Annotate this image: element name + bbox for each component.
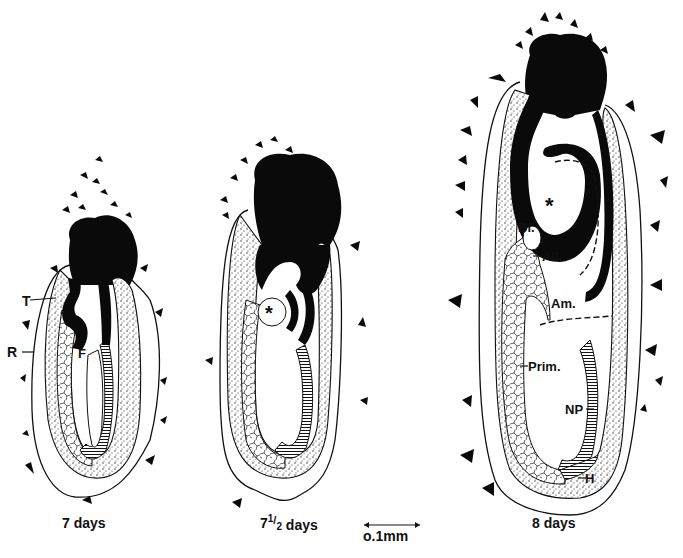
scale-bar-label: o.1mm bbox=[363, 528, 408, 544]
mesoderm-layer bbox=[502, 230, 565, 484]
label-T: T bbox=[22, 293, 31, 309]
proamniotic-cavity bbox=[87, 350, 103, 447]
inner-black-band bbox=[98, 282, 111, 345]
asterisk-marker: * bbox=[545, 193, 554, 218]
asterisk-marker: * bbox=[265, 302, 273, 324]
label-H: H bbox=[585, 471, 594, 486]
label-R: R bbox=[7, 344, 17, 360]
inner-black-band-2 bbox=[285, 290, 299, 332]
amnion-line-lower bbox=[540, 316, 612, 325]
ectoderm-layer bbox=[275, 345, 313, 458]
caption-7-days: 7 days bbox=[62, 515, 106, 531]
label-Am: Am. bbox=[551, 296, 576, 311]
label-Prim: Prim. bbox=[528, 359, 561, 374]
label-Bl: Bl. bbox=[518, 220, 535, 235]
scale-bar: o.1mm bbox=[363, 522, 420, 544]
embryo-development-figure: T R F 7 days * 71/2 days o.1mm bbox=[0, 0, 683, 558]
label-All: All. bbox=[542, 249, 562, 264]
embryo-8-days: E * Bl. All. Am. Prim. NP H 8 days bbox=[448, 12, 668, 531]
label-NP: NP bbox=[565, 402, 583, 417]
arrow-right-icon bbox=[415, 522, 420, 528]
embryo-7-days: T R F 7 days bbox=[7, 156, 167, 531]
embryo-7-5-days: * 71/2 days bbox=[205, 136, 368, 533]
mesoderm-layer bbox=[242, 300, 286, 468]
caption-8-days: 8 days bbox=[532, 515, 576, 531]
caption-7-5-days: 71/2 days bbox=[260, 513, 318, 533]
label-F: F bbox=[78, 346, 86, 361]
